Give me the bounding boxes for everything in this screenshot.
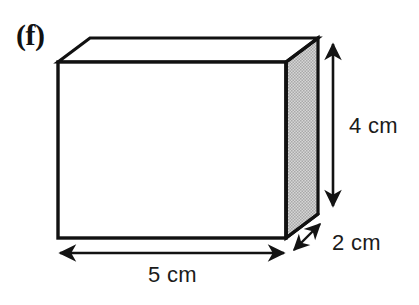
width-dimension-label: 5 cm: [148, 264, 197, 286]
depth-dimension-label: 2 cm: [332, 232, 381, 254]
rectangular-prism-diagram: [0, 0, 419, 305]
figure-canvas: (f) 4 cm 2 cm 5 cm: [0, 0, 419, 305]
prism-right-face: [286, 38, 318, 238]
part-label: (f): [16, 20, 44, 50]
prism-front-face: [58, 62, 286, 238]
height-dimension-label: 4 cm: [349, 115, 398, 137]
prism-top-face: [58, 38, 318, 62]
